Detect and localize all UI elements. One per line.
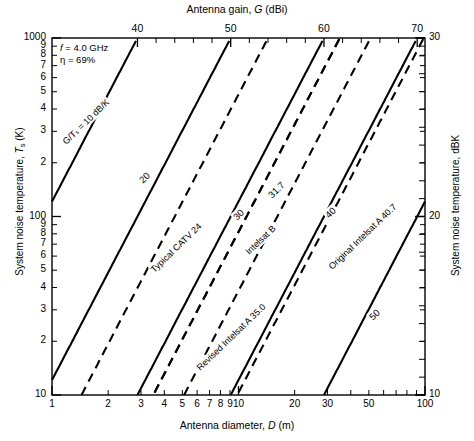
x-tick-label-30: 30	[307, 398, 347, 409]
y-tick-label-40: 4	[12, 281, 46, 292]
x-tick-label-50: 50	[349, 398, 389, 409]
y-tick-label-500: 5	[12, 85, 46, 96]
y-tick-label-60: 6	[12, 249, 46, 260]
y-tick-label-80: 8	[12, 227, 46, 238]
gain-tick-label-50: 50	[211, 22, 251, 34]
figure-root: Antenna gain, G (dBi) Antenna diameter, …	[0, 0, 474, 441]
curve-20	[52, 41, 229, 380]
x-tick-label-10: 10	[219, 398, 259, 409]
curve-10	[52, 41, 136, 202]
y-tick-label-700: 7	[12, 59, 46, 70]
y-tick-label-800: 8	[12, 48, 46, 59]
gain-tick-label-60: 60	[304, 22, 344, 34]
x-tick-label-100: 100	[405, 398, 445, 409]
y-tick-label-200: 2	[12, 156, 46, 167]
curve-intelsat-b	[155, 39, 340, 393]
x-tick-label-1: 1	[32, 398, 72, 409]
dbk-tick-label-20: 20	[429, 210, 459, 221]
y-tick-label-70: 7	[12, 237, 46, 248]
y-tick-label-20: 2	[12, 334, 46, 345]
y-tick-label-30: 3	[12, 303, 46, 314]
curve-35.0	[184, 41, 369, 395]
gain-tick-label-70: 70	[397, 22, 437, 34]
y-tick-label-400: 4	[12, 102, 46, 113]
gain-tick-label-40: 40	[117, 22, 157, 34]
y-tick-label-600: 6	[12, 71, 46, 82]
y-tick-label-300: 3	[12, 124, 46, 135]
y-tick-label-50: 5	[12, 263, 46, 274]
